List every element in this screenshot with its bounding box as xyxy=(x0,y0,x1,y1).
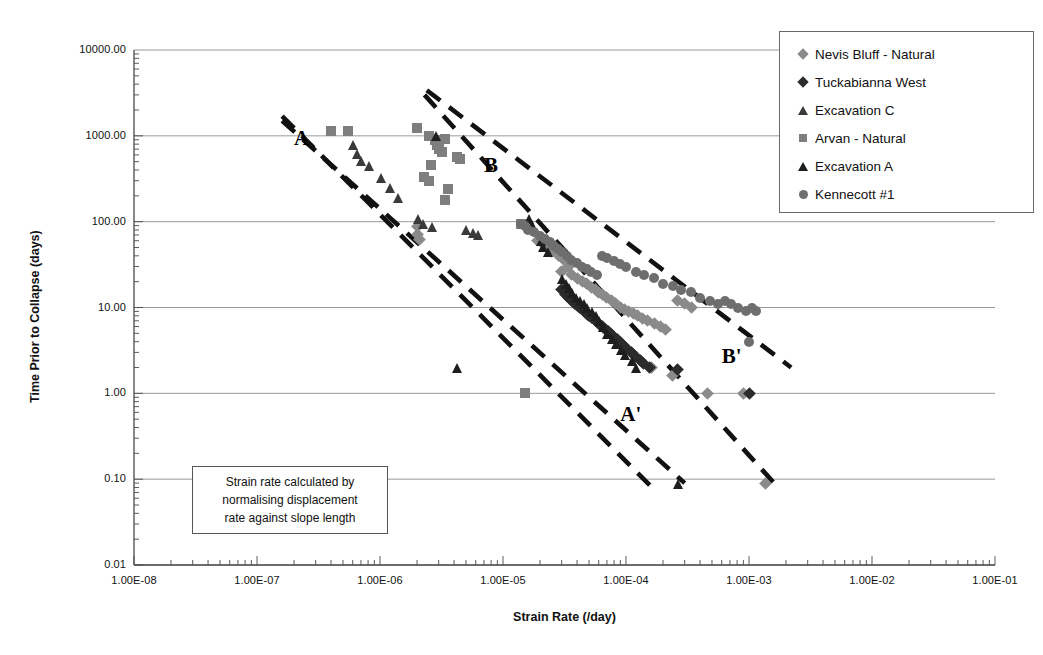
triangle-marker-icon xyxy=(794,106,812,115)
data-point xyxy=(393,193,403,203)
data-point xyxy=(676,285,686,295)
x-tick-label: 1.00E-06 xyxy=(335,574,425,586)
y-tick-label: 0.10 xyxy=(36,472,126,484)
x-tick-label: 1.00E-04 xyxy=(581,574,671,586)
data-point xyxy=(424,176,434,186)
x-tick-label: 1.00E-05 xyxy=(458,574,548,586)
data-point xyxy=(473,230,483,240)
legend-item-label: Kennecott #1 xyxy=(815,187,895,202)
legend-item-4[interactable]: Excavation A xyxy=(794,152,1033,180)
note-line-0: Strain rate calculated by xyxy=(201,473,379,491)
data-point xyxy=(639,270,649,280)
x-tick-label: 1.00E-03 xyxy=(704,574,794,586)
data-point xyxy=(631,363,641,373)
data-point xyxy=(592,270,602,280)
legend-item-label: Excavation A xyxy=(815,159,893,174)
trend-label-b-prime: B' xyxy=(722,344,742,369)
data-point xyxy=(621,262,631,272)
triangle-marker-icon xyxy=(794,162,812,171)
diamond-marker-icon xyxy=(794,78,812,86)
data-point xyxy=(427,222,437,232)
data-point xyxy=(364,161,374,171)
data-point xyxy=(695,293,705,303)
data-point xyxy=(440,134,450,144)
legend-item-2[interactable]: Excavation C xyxy=(794,96,1033,124)
trend-label-a: A xyxy=(294,126,309,151)
circle-marker-icon xyxy=(794,190,812,199)
data-point xyxy=(744,337,754,347)
note-line-2: rate against slope length xyxy=(201,509,379,527)
chart-legend: Nevis Bluff - NaturalTuckabianna WestExc… xyxy=(779,31,1034,213)
data-point xyxy=(520,388,530,398)
data-point xyxy=(348,140,358,150)
legend-item-3[interactable]: Arvan - Natural xyxy=(794,124,1033,152)
y-tick-label: 1.00 xyxy=(36,386,126,398)
x-axis-title: Strain Rate (/day) xyxy=(365,610,765,624)
data-point xyxy=(431,131,441,141)
legend-item-label: Excavation C xyxy=(815,103,895,118)
data-point xyxy=(440,195,450,205)
note-line-1: normalising displacement xyxy=(201,491,379,509)
y-tick-label: 1000.00 xyxy=(36,129,126,141)
data-point xyxy=(343,126,353,136)
x-tick-label: 1.00E-01 xyxy=(950,574,1040,586)
data-point xyxy=(385,183,395,193)
trend-label-b: B xyxy=(484,153,498,178)
trend-label-a-prime: A' xyxy=(620,402,641,427)
data-point xyxy=(326,126,336,136)
square-marker-icon xyxy=(794,134,812,142)
x-tick-label: 1.00E-02 xyxy=(827,574,917,586)
diamond-marker-icon xyxy=(794,50,812,58)
data-point xyxy=(437,147,447,157)
y-tick-label: 100.00 xyxy=(36,215,126,227)
y-tick-label: 10000.00 xyxy=(36,43,126,55)
y-axis-title: Time Prior to Collapse (days) xyxy=(28,230,42,403)
data-point xyxy=(412,123,422,133)
legend-item-0[interactable]: Nevis Bluff - Natural xyxy=(794,40,1033,68)
data-point xyxy=(455,154,465,164)
data-point xyxy=(426,160,436,170)
annotation-note-box: Strain rate calculated bynormalising dis… xyxy=(192,466,388,534)
x-tick-label: 1.00E-08 xyxy=(89,574,179,586)
y-tick-label: 0.01 xyxy=(36,558,126,570)
data-point xyxy=(443,184,453,194)
y-tick-label: 10.00 xyxy=(36,301,126,313)
data-point xyxy=(658,279,668,289)
data-point xyxy=(452,363,462,373)
legend-item-5[interactable]: Kennecott #1 xyxy=(794,180,1033,208)
x-tick-label: 1.00E-07 xyxy=(212,574,302,586)
chart-figure: 10000.001000.00100.0010.001.000.100.011.… xyxy=(0,0,1043,655)
legend-item-label: Nevis Bluff - Natural xyxy=(815,47,935,62)
legend-item-label: Arvan - Natural xyxy=(815,131,906,146)
legend-item-1[interactable]: Tuckabianna West xyxy=(794,68,1033,96)
data-point xyxy=(376,173,386,183)
legend-item-label: Tuckabianna West xyxy=(815,75,926,90)
data-point xyxy=(673,479,683,489)
